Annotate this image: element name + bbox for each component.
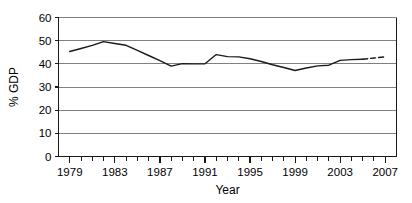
chart-container: 0102030405060197919831987199119951999200… — [0, 0, 412, 203]
x-axis-tick-label: 1987 — [147, 166, 173, 178]
data-line-projected — [363, 57, 386, 59]
y-axis-tick-label: 30 — [39, 81, 52, 93]
x-axis-title: Year — [215, 183, 239, 197]
x-axis-tick-label: 1979 — [57, 166, 83, 178]
data-line-actual — [70, 42, 363, 71]
y-axis-title: % GDP — [7, 67, 21, 107]
x-axis-tick-label: 1983 — [102, 166, 128, 178]
x-axis-tick-label: 1991 — [192, 166, 218, 178]
x-axis-tick-label: 1999 — [282, 166, 308, 178]
y-axis-tick-label: 20 — [39, 104, 52, 116]
gdp-line-chart: 0102030405060197919831987199119951999200… — [0, 0, 412, 203]
y-axis-tick-label: 60 — [39, 12, 52, 24]
x-axis-tick-label: 2003 — [327, 166, 353, 178]
x-axis-tick-label: 1995 — [237, 166, 263, 178]
y-axis-tick-label: 40 — [39, 58, 52, 70]
y-axis-tick-label: 10 — [39, 127, 52, 139]
x-axis-tick-label: 2007 — [372, 166, 398, 178]
y-axis-tick-label: 0 — [45, 151, 51, 163]
y-axis-tick-label: 50 — [39, 35, 52, 47]
